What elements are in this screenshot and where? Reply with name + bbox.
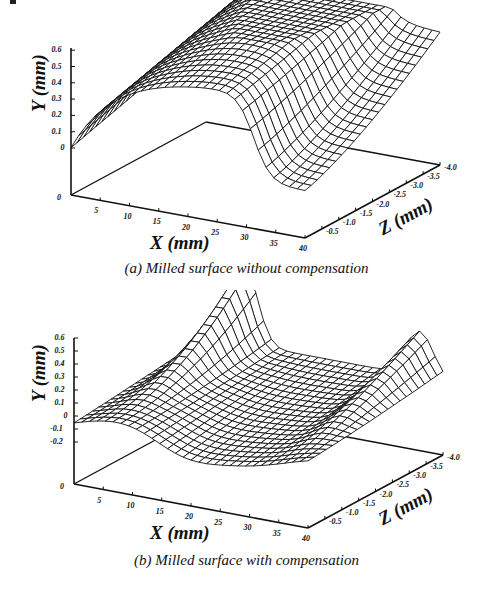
surface-wireframe: [71, 0, 440, 190]
x-tick-label: 20: [185, 512, 193, 521]
z-tick-label: -4.0: [447, 453, 460, 462]
y-tick-label: 0.5: [55, 346, 65, 355]
x-tick-label: 5: [94, 206, 98, 215]
z-tick-label: -2.0: [377, 200, 390, 209]
z-tick-label: -2.0: [380, 490, 393, 499]
z-tick-label: -2.5: [396, 480, 409, 489]
z-tick-label: -3.5: [427, 172, 440, 181]
surface-plot-a: [0, 0, 493, 290]
y-tick-label: 0.6: [55, 333, 65, 342]
x-axis-title: X (mm): [150, 522, 210, 544]
z-tick-label: -2.5: [393, 190, 406, 199]
x-tick-label: 30: [244, 523, 252, 532]
x-tick-label: 10: [124, 212, 132, 221]
x-tick-label: 25: [211, 228, 219, 237]
z-tick-label: -1.0: [343, 218, 356, 227]
y-tick-label: 0.2: [52, 110, 62, 119]
z-tick-label: -3.0: [413, 471, 426, 480]
x-tick-label: 5: [97, 496, 101, 505]
figure-a: Y (mm) X (mm) Z (mm) (a) Milled surface …: [0, 0, 493, 290]
y-tick-label: -0.2: [50, 437, 63, 446]
y-tick-label: 0.3: [52, 94, 62, 103]
z-tick-label: -1.5: [360, 209, 373, 218]
z-tick-label: -1.0: [346, 508, 359, 517]
z-tick-label: -3.5: [430, 462, 443, 471]
y-tick-label: 0.3: [55, 372, 65, 381]
x-tick-label: 25: [214, 518, 222, 527]
x-axis-title: X (mm): [150, 232, 210, 254]
y-tick-label: 0.1: [55, 398, 65, 407]
surface-wireframe: [74, 290, 443, 466]
figure-caption: (b) Milled surface with compensation: [0, 552, 493, 569]
x-tick-label: 30: [241, 233, 249, 242]
x-tick-label: 40: [302, 534, 310, 543]
y-tick-label: -0.1: [50, 424, 63, 433]
x-tick-label: 40: [299, 244, 307, 253]
y-tick-label: 0.6: [52, 45, 62, 54]
x-tick-label: 15: [156, 507, 164, 516]
x-tick-label: 0: [57, 193, 61, 202]
x-tick-label: 15: [153, 217, 161, 226]
y-tick-label: 0.2: [55, 385, 65, 394]
y-axis-title: Y (mm): [28, 54, 50, 112]
z-tick-label: -0.5: [326, 227, 339, 236]
figure-b: Y (mm) X (mm) Z (mm) (b) Milled surface …: [0, 290, 493, 605]
y-tick-label: 0.4: [52, 78, 62, 87]
y-tick-label: 0: [61, 143, 65, 152]
z-tick-label: -1.5: [363, 499, 376, 508]
x-tick-label: 35: [270, 239, 278, 248]
z-tick-label: -4.0: [444, 163, 457, 172]
x-tick-label: 35: [273, 529, 281, 538]
x-tick-label: 10: [127, 501, 135, 510]
figure-caption: (a) Milled surface without compensation: [0, 260, 493, 277]
y-tick-label: 0: [64, 411, 68, 420]
y-tick-label: 0.1: [52, 127, 62, 136]
z-tick-label: -3.0: [410, 181, 423, 190]
y-axis-title: Y (mm): [28, 344, 50, 402]
x-tick-label: 20: [182, 223, 190, 232]
y-tick-label: 0.4: [55, 359, 65, 368]
z-tick-label: -0.5: [329, 517, 342, 526]
x-tick-label: 0: [60, 482, 64, 491]
y-tick-label: 0.5: [52, 62, 62, 71]
